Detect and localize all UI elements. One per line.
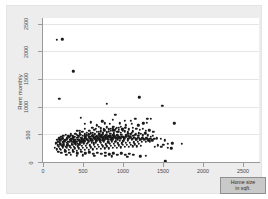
scatter-point xyxy=(72,70,74,72)
scatter-point xyxy=(72,151,74,153)
scatter-point xyxy=(111,155,113,157)
scatter-point xyxy=(152,131,154,133)
scatter-point xyxy=(148,129,150,131)
graph-region: 05001000150020002500 0500100015002000250… xyxy=(6,5,262,194)
scatter-point xyxy=(82,154,84,156)
scatter-point xyxy=(130,120,132,122)
y-tick-label-wrap: 0 xyxy=(6,162,38,163)
scatter-point xyxy=(123,130,125,132)
scatter-point xyxy=(92,148,94,150)
x-axis-title-line-2: in sqft. xyxy=(235,186,250,191)
y-axis-line xyxy=(42,18,43,163)
x-axis-line xyxy=(42,162,260,163)
scatter-point xyxy=(116,146,118,148)
y-tick-label: 500 xyxy=(25,130,31,139)
scatter-point xyxy=(112,152,114,154)
scatter-point xyxy=(156,137,158,139)
scatter-point xyxy=(145,122,147,124)
scatter-point xyxy=(161,105,163,107)
scatter-point xyxy=(131,123,133,125)
y-tick-label: 0 xyxy=(28,161,34,164)
x-tick-label: 2000 xyxy=(197,168,209,174)
scatter-point xyxy=(108,147,110,149)
scatter-point xyxy=(128,152,130,154)
y-tick-mark xyxy=(38,79,42,80)
scatter-point xyxy=(139,155,141,157)
scatter-point xyxy=(83,123,85,125)
scatter-point xyxy=(84,152,86,154)
scatter-point xyxy=(173,122,175,124)
y-tick-label: 2000 xyxy=(23,46,29,58)
scatter-point xyxy=(138,96,140,98)
scatter-point xyxy=(171,142,173,144)
y-tick-label-wrap: 2500 xyxy=(6,24,38,25)
scatter-point xyxy=(109,123,111,125)
scatter-point xyxy=(99,127,101,129)
scatter-point xyxy=(126,156,128,158)
scatter-point xyxy=(111,119,113,121)
scatter-point xyxy=(135,128,137,130)
scatter-point xyxy=(96,148,98,150)
scatter-point xyxy=(65,154,67,156)
scatter-point xyxy=(60,151,62,153)
y-tick-label-wrap: 2000 xyxy=(6,51,38,52)
y-axis-title-label: Rent monthly xyxy=(17,74,23,109)
x-tick-label: 0 xyxy=(42,168,45,174)
x-tick-mark xyxy=(123,163,124,167)
scatter-point xyxy=(58,97,60,99)
scatter-point xyxy=(145,154,147,156)
x-tick-label: 1500 xyxy=(157,168,169,174)
scatter-point xyxy=(163,139,165,141)
scatter-point xyxy=(88,151,90,153)
scatter-point xyxy=(124,146,126,148)
y-tick-mark xyxy=(38,24,42,25)
scatter-point xyxy=(96,151,98,153)
scatter-point xyxy=(100,153,102,155)
scatter-point xyxy=(170,147,172,149)
scatter-point xyxy=(159,138,161,140)
y-tick-label-wrap: 500 xyxy=(6,134,38,135)
scatter-point xyxy=(136,145,138,147)
plot-area xyxy=(43,18,259,162)
scatter-point xyxy=(157,144,159,146)
scatter-point xyxy=(123,120,125,122)
y-tick-mark xyxy=(38,162,42,163)
scatter-point xyxy=(120,152,122,154)
scatter-point xyxy=(134,118,136,120)
scatter-point xyxy=(114,113,116,115)
scatter-point xyxy=(128,146,130,148)
scatter-point xyxy=(160,146,162,148)
scatter-point xyxy=(139,128,141,130)
x-axis-title-box[interactable]: Home size in sqft. xyxy=(220,177,266,194)
scatter-point xyxy=(104,154,106,156)
screenshot-root: 05001000150020002500 0500100015002000250… xyxy=(0,0,268,199)
scatter-point xyxy=(124,126,126,128)
scatter-point xyxy=(119,122,121,124)
scatter-point xyxy=(152,135,154,137)
scatter-point xyxy=(79,116,81,118)
scatter-point xyxy=(132,145,134,147)
scatter-point xyxy=(142,122,144,124)
y-tick-mark xyxy=(38,51,42,52)
scatter-point xyxy=(132,154,134,156)
scatter-point xyxy=(141,141,143,143)
scatter-point xyxy=(84,149,86,151)
scatter-point xyxy=(61,38,63,40)
scatter-point xyxy=(116,153,118,155)
scatter-point xyxy=(75,154,77,156)
x-tick-label: 2500 xyxy=(237,168,249,174)
scatter-point xyxy=(154,146,156,148)
scatter-point xyxy=(149,118,151,120)
scatter-point xyxy=(106,102,108,104)
scatter-points-layer xyxy=(43,18,259,162)
y-tick-label: 2500 xyxy=(23,18,29,30)
scatter-point xyxy=(80,151,82,153)
x-tick-mark xyxy=(163,163,164,167)
scatter-point xyxy=(120,146,122,148)
y-tick-mark xyxy=(38,107,42,108)
scatter-point xyxy=(128,128,130,130)
x-tick-label: 1000 xyxy=(117,168,129,174)
x-tick-mark xyxy=(243,163,244,167)
scatter-point xyxy=(57,151,59,153)
x-tick-mark xyxy=(203,163,204,167)
